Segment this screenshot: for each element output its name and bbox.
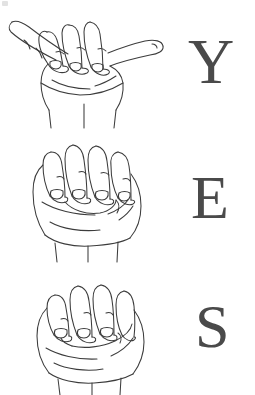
letter-cell-e: E <box>175 132 255 264</box>
sign-row-y: Y <box>0 0 255 132</box>
letter-y: Y <box>188 30 234 94</box>
asl-letter-y-hand <box>0 0 175 132</box>
sign-row-s: S <box>0 264 255 395</box>
letter-cell-s: S <box>175 264 255 395</box>
asl-fingerspelling-chart: Y <box>0 0 255 395</box>
letter-cell-y: Y <box>175 0 255 132</box>
sign-row-e: E <box>0 132 255 264</box>
letter-s: S <box>195 295 229 357</box>
letter-e: E <box>191 166 229 228</box>
asl-letter-e-hand <box>0 132 175 264</box>
asl-letter-s-hand <box>0 264 175 395</box>
